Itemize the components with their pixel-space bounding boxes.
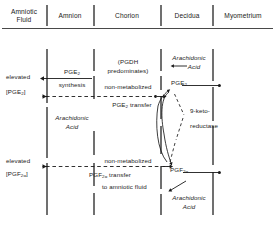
label-nine-keto-line1: 9-keto- xyxy=(190,107,210,115)
label-pgdh-line1: (PGDH xyxy=(118,58,138,66)
label-elevated-pgf2a-line1: elevated xyxy=(6,157,30,165)
label-arachidonic-acid-decidua-bottom-line2: Acid xyxy=(183,203,195,211)
arachidonic-to-pgf2a-arrow xyxy=(171,181,186,190)
label-pge2-synthesis-line1: PGE2 xyxy=(64,68,80,77)
nine-keto-reductase-dashed-links xyxy=(170,94,184,162)
label-elevated-pgf2a-value: [PGF2α] xyxy=(6,170,28,179)
label-pgf2a-decidua: PGF2α xyxy=(170,166,188,175)
label-pgdh-line2: predominates) xyxy=(108,67,149,75)
label-arachidonic-acid-decidua-bottom-line1: Arachidonic xyxy=(172,194,205,202)
label-non-metabolized-top: non-metabolized xyxy=(104,83,151,91)
diagram-lines-layer xyxy=(0,0,275,226)
column-header-amnion: Amnion xyxy=(59,12,82,20)
label-elevated-pge2-line1: elevated xyxy=(6,73,30,81)
reductase-curve-down xyxy=(162,92,171,163)
label-to-amniotic-fluid: to amniotic fluid xyxy=(102,183,147,191)
label-arachidonic-acid-decidua-top-line2: Acid xyxy=(188,63,200,71)
label-arachidonic-acid-amnion-line1: Arachidonic xyxy=(55,114,88,122)
prostaglandin-transfer-diagram: Amniotic Fluid Amnion Chorion Decidua My… xyxy=(0,0,275,226)
label-nine-keto-line2: reductase xyxy=(190,122,218,130)
label-pge2-decidua: PGE2 xyxy=(171,79,187,88)
label-arachidonic-acid-decidua-top-line1: Arachidonic xyxy=(172,54,205,62)
column-header-amniotic-fluid: Amniotic Fluid xyxy=(11,8,37,23)
column-header-chorion: Chorion xyxy=(115,12,139,20)
pge2-transfer-origin-dot xyxy=(154,95,157,98)
label-non-metabolized-bottom: non-metabolized xyxy=(104,157,151,165)
label-pge2-transfer: PGE2 transfer xyxy=(112,101,152,110)
label-pgf2a-transfer: PGF2α transfer xyxy=(89,171,131,180)
reductase-curve-up xyxy=(157,91,168,162)
pge2-myometrium-endpoint-dot xyxy=(218,84,221,87)
column-header-decidua: Decidua xyxy=(175,12,200,20)
pgf2a-myometrium-endpoint-dot xyxy=(218,171,221,174)
column-header-myometrium: Myometrium xyxy=(224,12,261,20)
label-pge2-synthesis-line2: synthesis xyxy=(59,81,86,89)
label-elevated-pge2-value: [PGE2] xyxy=(6,88,26,97)
label-arachidonic-acid-amnion-line2: Acid xyxy=(66,123,78,131)
